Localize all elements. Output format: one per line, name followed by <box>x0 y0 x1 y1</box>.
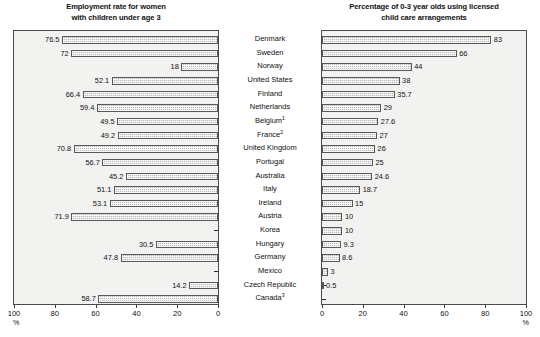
axis-tick-label: 40 <box>399 309 407 319</box>
bar-row: 45.2 <box>14 170 218 184</box>
bar <box>322 104 381 112</box>
axis-tick-label: 100 <box>520 309 533 319</box>
bar-value-label: 15 <box>355 198 363 209</box>
category-label: Ireland <box>232 196 308 210</box>
bar-rows-right: 8366443835.72927.627262524.618.71510109.… <box>322 31 526 304</box>
category-label: United States <box>232 73 308 87</box>
axis-unit-right: % <box>523 318 529 327</box>
axis-tick <box>404 305 405 308</box>
category-label: Belgium1 <box>232 114 308 128</box>
bar <box>322 50 457 58</box>
bar <box>322 282 324 290</box>
category-label: United Kingdom <box>232 141 308 155</box>
bar-row: 59.4 <box>14 101 218 115</box>
bar-row: 49.2 <box>14 129 218 143</box>
axis-tick-label: 80 <box>51 309 59 319</box>
bar <box>110 200 218 208</box>
bar-value-label: 8.6 <box>342 252 352 263</box>
bar-value-label: 52.1 <box>95 75 109 86</box>
bar-value-label: 25 <box>376 157 384 168</box>
chart-panel-employment: Employment rate for women with children … <box>0 0 232 337</box>
axis-tick <box>322 305 323 308</box>
bar <box>322 145 375 153</box>
bar-value-label: 27.6 <box>381 116 395 127</box>
bar-value-label: 18.7 <box>363 184 377 195</box>
bar-value-label: 3 <box>331 266 335 277</box>
footnote-marker: 2 <box>280 128 283 134</box>
bar-value-label: 45.2 <box>109 171 123 182</box>
bar-value-label: 18 <box>171 61 179 72</box>
bar <box>181 63 218 71</box>
bar <box>97 104 218 112</box>
footnote-marker: 3 <box>282 292 285 298</box>
axis-tick-label: 20 <box>359 309 367 319</box>
axis-tick <box>14 305 15 308</box>
value-axis-right: % 020406080100 <box>321 305 527 335</box>
bar-row: 8.6 <box>322 251 526 265</box>
bar-row: 10 <box>322 224 526 238</box>
bar-value-label: 58.7 <box>81 293 95 304</box>
bar <box>322 241 341 249</box>
bar-row: 38 <box>322 74 526 88</box>
bar-value-label: 66.4 <box>66 89 80 100</box>
bar-row: 72 <box>14 47 218 61</box>
bar-row: 9.3 <box>322 238 526 252</box>
category-label: Norway <box>232 59 308 73</box>
bar-row: 27.6 <box>322 115 526 129</box>
axis-tick-label: 20 <box>173 309 181 319</box>
bar-row <box>322 292 526 306</box>
category-label: Austria <box>232 209 308 223</box>
bar-row: 83 <box>322 33 526 47</box>
axis-tick <box>363 305 364 308</box>
category-label: Portugal <box>232 155 308 169</box>
bar <box>322 254 340 262</box>
bar-row: 56.7 <box>14 156 218 170</box>
bar-value-label: 59.4 <box>80 102 94 113</box>
bar-row: 18 <box>14 60 218 74</box>
category-axis: DenmarkSwedenNorwayUnited StatesFinlandN… <box>232 30 308 305</box>
bar <box>322 200 353 208</box>
bar-row: 52.1 <box>14 74 218 88</box>
value-axis-left: % 100806040200 <box>13 305 219 335</box>
category-label: Denmark <box>232 32 308 46</box>
bar <box>322 268 328 276</box>
bar <box>71 213 218 221</box>
bar-row: 47.8 <box>14 251 218 265</box>
axis-tick <box>485 305 486 308</box>
bar <box>322 186 360 194</box>
figure: Employment rate for women with children … <box>0 0 540 337</box>
bar-value-label: 70.8 <box>57 143 71 154</box>
bar <box>322 63 412 71</box>
bar-row: 44 <box>322 60 526 74</box>
footnote-marker: 1 <box>282 114 285 120</box>
bar-row: 35.7 <box>322 88 526 102</box>
bar <box>62 36 218 44</box>
bar-row: 71.9 <box>14 210 218 224</box>
bar-value-label: 26 <box>378 143 386 154</box>
bar-value-label: 38 <box>402 75 410 86</box>
chart-title-right: Percentage of 0-3 year olds using licens… <box>308 2 540 23</box>
category-label: Mexico <box>232 264 308 278</box>
bar-row: 70.8 <box>14 142 218 156</box>
bar-row: 58.7 <box>14 292 218 306</box>
bar-row: 66 <box>322 47 526 61</box>
category-label: Germany <box>232 250 308 264</box>
axis-tick-label: 60 <box>91 309 99 319</box>
axis-tick <box>55 305 56 308</box>
bar <box>322 159 373 167</box>
bar-value-label: 0.5 <box>326 280 336 291</box>
bar <box>322 227 342 235</box>
bar-row: 14.2 <box>14 279 218 293</box>
bar-row: 66.4 <box>14 88 218 102</box>
bar-row: 26 <box>322 142 526 156</box>
bar-row: 10 <box>322 210 526 224</box>
bar-value-label: 83 <box>494 34 502 45</box>
bar-value-label: 24.6 <box>375 171 389 182</box>
bar-value-label: 30.5 <box>139 239 153 250</box>
category-label: Hungary <box>232 237 308 251</box>
bar-row: 29 <box>322 101 526 115</box>
category-label: Sweden <box>232 46 308 60</box>
category-tick <box>214 230 218 231</box>
bar <box>71 50 218 58</box>
plot-area-right: 8366443835.72927.627262524.618.71510109.… <box>321 30 527 305</box>
